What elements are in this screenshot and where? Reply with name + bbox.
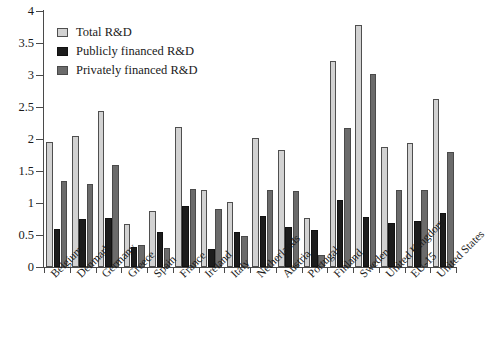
x-axis-tick bbox=[250, 268, 251, 273]
bar-group bbox=[252, 11, 273, 267]
y-axis-tick-label: 2 bbox=[0, 133, 34, 146]
x-axis-tick bbox=[96, 268, 97, 273]
x-axis-tick bbox=[276, 268, 277, 273]
legend-item: Total R&D bbox=[57, 26, 198, 38]
bar-group bbox=[227, 11, 248, 267]
y-axis-tick-label: 1.5 bbox=[0, 165, 34, 178]
x-axis-tick bbox=[224, 268, 225, 273]
legend-label: Publicly financed R&D bbox=[76, 45, 194, 58]
y-axis-tick-label: 4 bbox=[0, 5, 34, 18]
y-axis-tick-label: 3.5 bbox=[0, 37, 34, 50]
legend-swatch-icon bbox=[57, 28, 68, 37]
legend-label: Privately financed R&D bbox=[76, 64, 198, 77]
chart-legend: Total R&DPublicly financed R&DPrivately … bbox=[57, 26, 198, 83]
y-axis-tick bbox=[36, 43, 43, 44]
legend-swatch-icon bbox=[57, 66, 68, 75]
y-axis-tick-label: 0.5 bbox=[0, 229, 34, 242]
y-axis-tick-label: 3 bbox=[0, 69, 34, 82]
x-axis-tick bbox=[302, 268, 303, 273]
x-axis-tick bbox=[199, 268, 200, 273]
y-axis-tick bbox=[36, 203, 43, 204]
bar-private bbox=[344, 128, 351, 267]
y-axis-tick bbox=[36, 75, 43, 76]
bar-public bbox=[182, 206, 189, 267]
bar-group bbox=[201, 11, 222, 267]
x-axis-tick bbox=[456, 268, 457, 273]
x-axis-tick bbox=[121, 268, 122, 273]
bar-group bbox=[355, 11, 376, 267]
x-axis-tick bbox=[353, 268, 354, 273]
bar-total bbox=[46, 142, 53, 267]
y-axis-tick bbox=[36, 267, 43, 268]
y-axis-tick bbox=[36, 235, 43, 236]
y-axis-tick bbox=[36, 171, 43, 172]
bar-total bbox=[355, 25, 362, 267]
y-axis-tick bbox=[36, 139, 43, 140]
bar-total bbox=[175, 127, 182, 267]
x-axis-tick bbox=[405, 268, 406, 273]
y-axis-tick-label: 2.5 bbox=[0, 101, 34, 114]
legend-item: Privately financed R&D bbox=[57, 64, 198, 76]
bar-private bbox=[370, 74, 377, 267]
x-axis-tick bbox=[430, 268, 431, 273]
bar-total bbox=[433, 99, 440, 267]
y-axis-tick-label: 0 bbox=[0, 261, 34, 274]
bar-total bbox=[252, 138, 259, 267]
x-axis-tick bbox=[173, 268, 174, 273]
bar-private bbox=[447, 152, 454, 267]
bar-group bbox=[278, 11, 299, 267]
x-axis-tick bbox=[70, 268, 71, 273]
bar-public bbox=[337, 200, 344, 267]
bar-total bbox=[330, 61, 337, 267]
x-axis-tick bbox=[44, 268, 45, 273]
bar-group bbox=[381, 11, 402, 267]
y-axis-tick bbox=[36, 107, 43, 108]
x-axis-tick bbox=[379, 268, 380, 273]
x-axis-tick bbox=[327, 268, 328, 273]
bar-group bbox=[330, 11, 351, 267]
legend-item: Publicly financed R&D bbox=[57, 45, 198, 57]
x-axis-tick bbox=[147, 268, 148, 273]
y-axis-tick-label: 1 bbox=[0, 197, 34, 210]
legend-label: Total R&D bbox=[76, 26, 132, 39]
legend-swatch-icon bbox=[57, 47, 68, 56]
bar-group bbox=[304, 11, 325, 267]
y-axis-tick bbox=[36, 11, 43, 12]
